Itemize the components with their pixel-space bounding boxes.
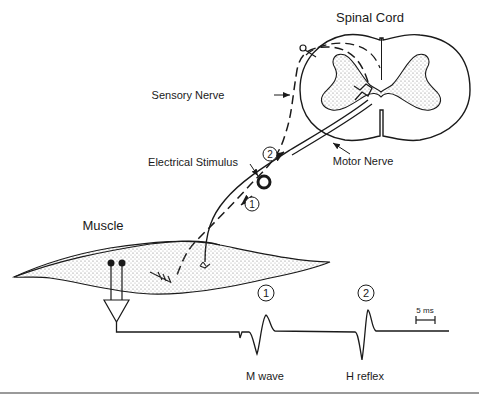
amplifier-icon [104,300,129,322]
sensory-cell-body-icon [300,45,306,51]
muscle-body [14,241,330,294]
label-motor-nerve: Motor Nerve [333,155,394,167]
scale-bar-label: 5 ms [416,306,433,315]
marker-1: 1 [249,199,255,210]
h-reflex-diagram: 1 2 1 2 5 ms Spinal Cord Sensory Nerve M… [0,0,479,399]
direction-2: 2 [263,147,284,161]
stimulus-ring-icon [258,176,270,188]
direction-1: 1 [241,196,259,211]
spinal-cord [300,34,470,140]
label-h-reflex: H reflex [346,370,384,382]
label-electrical-stimulus: Electrical Stimulus [148,156,238,168]
emg-trace [117,310,450,360]
label-spinal-cord: Spinal Cord [336,10,404,25]
trace-marker-2: 2 [363,287,369,299]
bottom-divider [0,392,479,394]
label-m-wave: M wave [246,370,284,382]
marker-2: 2 [267,149,273,160]
label-muscle: Muscle [82,218,123,233]
trace-marker-1: 1 [263,287,269,299]
spinal-cord-outline [300,34,470,140]
scale-bar: 5 ms [416,306,435,324]
label-sensory-nerve: Sensory Nerve [152,89,225,101]
motor-nerve-pointer [333,143,350,154]
